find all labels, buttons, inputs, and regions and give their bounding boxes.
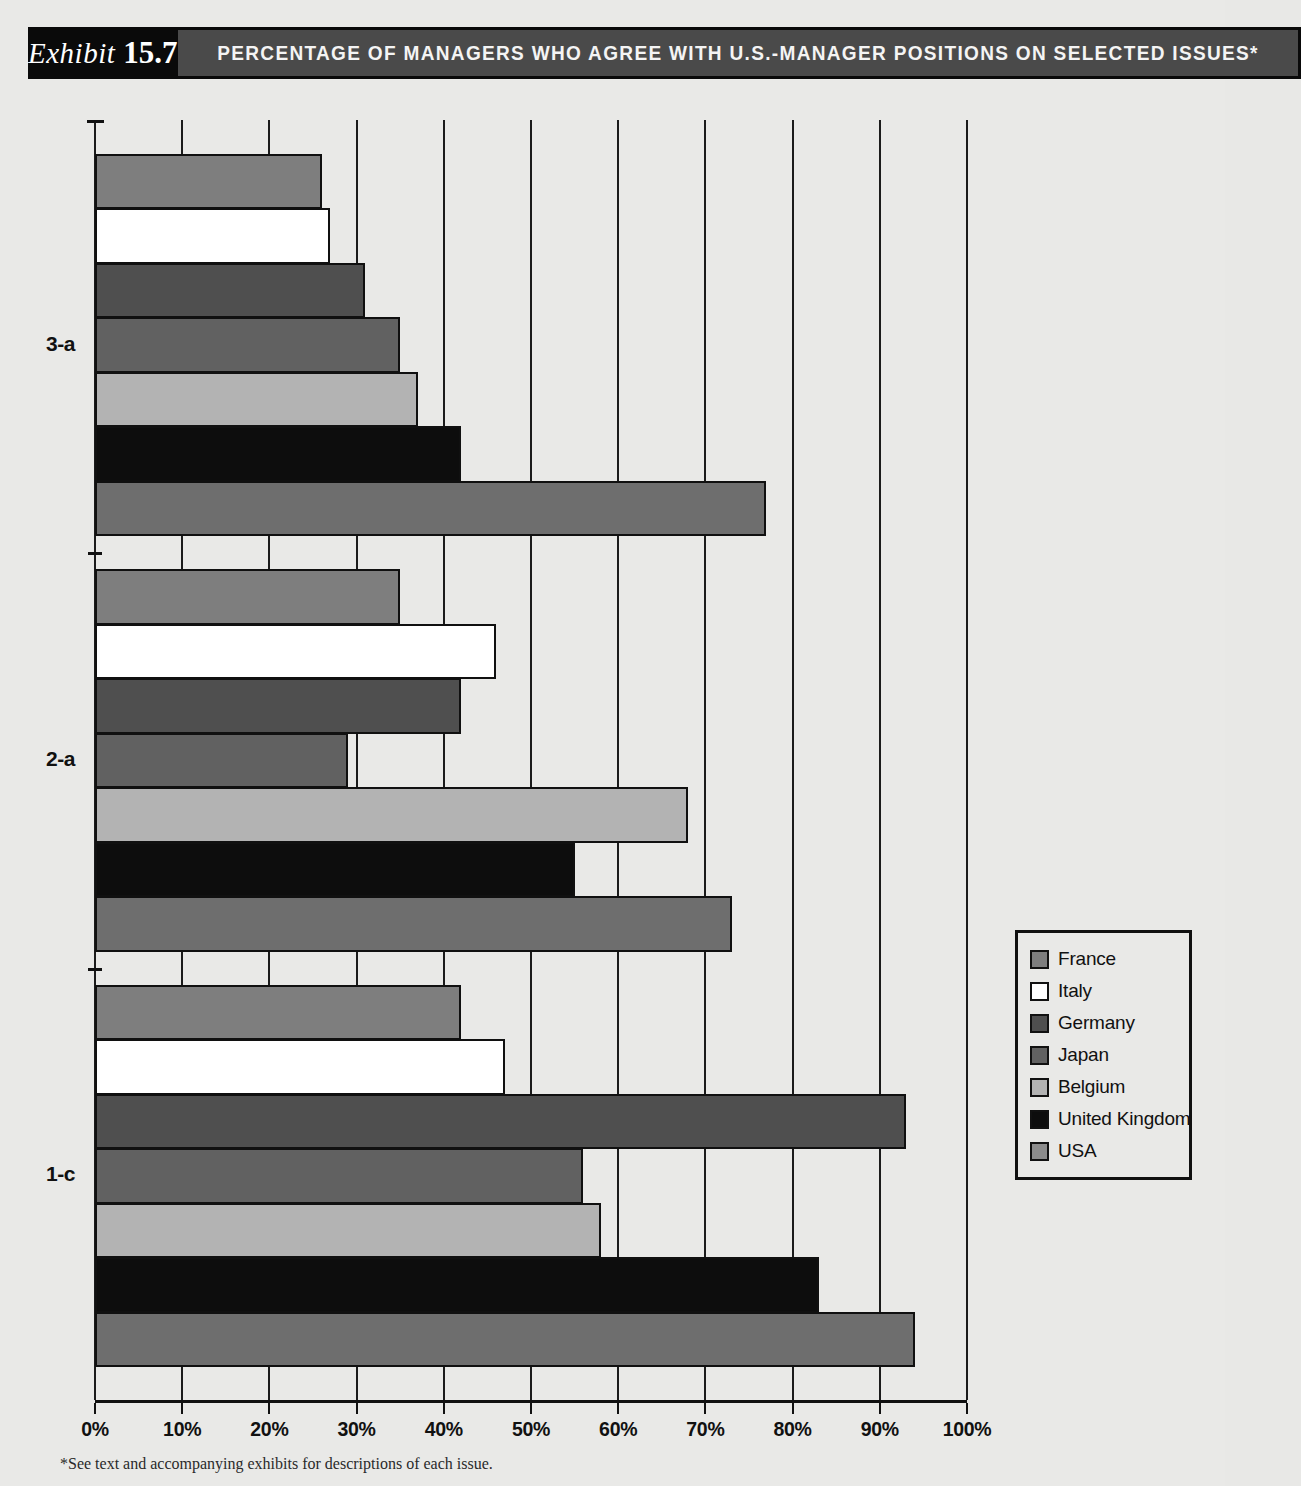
legend-label: United Kingdom bbox=[1058, 1108, 1190, 1130]
legend-label: Japan bbox=[1058, 1044, 1109, 1066]
gridline bbox=[617, 120, 619, 1400]
legend-item[interactable]: Germany bbox=[1030, 1007, 1181, 1039]
gridline bbox=[792, 120, 794, 1400]
legend-swatch-icon bbox=[1030, 1078, 1049, 1097]
legend-item[interactable]: United Kingdom bbox=[1030, 1103, 1181, 1135]
x-tick-label: 60% bbox=[599, 1418, 637, 1441]
bar bbox=[95, 481, 766, 536]
legend-item[interactable]: France bbox=[1030, 943, 1181, 975]
legend-item[interactable]: Japan bbox=[1030, 1039, 1181, 1071]
x-tick bbox=[617, 1403, 619, 1414]
bar bbox=[95, 1203, 601, 1258]
exhibit-title-bar: PERCENTAGE OF MANAGERS WHO AGREE WITH U.… bbox=[178, 27, 1301, 79]
bar bbox=[95, 1257, 819, 1312]
category-label: 3-a bbox=[46, 332, 75, 356]
legend-label: Italy bbox=[1058, 980, 1092, 1002]
bar bbox=[95, 1312, 915, 1367]
x-tick bbox=[792, 1403, 794, 1414]
bar bbox=[95, 317, 400, 372]
footnote: *See text and accompanying exhibits for … bbox=[60, 1455, 760, 1481]
x-tick-label: 30% bbox=[338, 1418, 376, 1441]
exhibit-tab: Exhibit 15.7 bbox=[28, 27, 178, 79]
legend-swatch-icon bbox=[1030, 1142, 1049, 1161]
bar bbox=[95, 678, 461, 733]
x-tick bbox=[879, 1403, 881, 1414]
x-tick-label: 20% bbox=[250, 1418, 288, 1441]
legend-swatch-icon bbox=[1030, 950, 1049, 969]
y-axis-tick bbox=[88, 552, 102, 555]
gridline bbox=[704, 120, 706, 1400]
legend-label: Belgium bbox=[1058, 1076, 1125, 1098]
bar bbox=[95, 154, 322, 209]
x-tick bbox=[94, 1403, 96, 1414]
bar bbox=[95, 624, 496, 679]
gridline bbox=[966, 120, 968, 1400]
bar bbox=[95, 896, 732, 951]
legend-item[interactable]: Italy bbox=[1030, 975, 1181, 1007]
bar bbox=[95, 372, 418, 427]
x-tick bbox=[181, 1403, 183, 1414]
x-tick-label: 100% bbox=[943, 1418, 992, 1441]
legend-label: France bbox=[1058, 948, 1116, 970]
x-tick bbox=[443, 1403, 445, 1414]
x-tick bbox=[704, 1403, 706, 1414]
legend-item[interactable]: USA bbox=[1030, 1135, 1181, 1167]
exhibit-word: Exhibit bbox=[28, 37, 115, 70]
x-tick-label: 40% bbox=[425, 1418, 463, 1441]
x-tick-label: 90% bbox=[861, 1418, 899, 1441]
bar bbox=[95, 263, 365, 318]
gridline bbox=[879, 120, 881, 1400]
x-tick bbox=[966, 1403, 968, 1414]
bar bbox=[95, 787, 688, 842]
legend-label: Germany bbox=[1058, 1012, 1135, 1034]
bar bbox=[95, 1148, 583, 1203]
exhibit-header: Exhibit 15.7 PERCENTAGE OF MANAGERS WHO … bbox=[28, 27, 1215, 79]
legend-swatch-icon bbox=[1030, 1046, 1049, 1065]
legend: FranceItalyGermanyJapanBelgiumUnited Kin… bbox=[1015, 930, 1192, 1180]
bar bbox=[95, 985, 461, 1040]
category-label: 2-a bbox=[46, 747, 75, 771]
x-tick-label: 70% bbox=[686, 1418, 724, 1441]
bar bbox=[95, 208, 330, 263]
x-tick-label: 0% bbox=[81, 1418, 109, 1441]
bar bbox=[95, 1094, 906, 1149]
page-title: PERCENTAGE OF MANAGERS WHO AGREE WITH U.… bbox=[217, 41, 1259, 65]
bar bbox=[95, 426, 461, 481]
legend-label: USA bbox=[1058, 1140, 1096, 1162]
legend-swatch-icon bbox=[1030, 1110, 1049, 1129]
y-axis-top-cap bbox=[87, 120, 104, 123]
bar bbox=[95, 569, 400, 624]
legend-swatch-icon bbox=[1030, 1014, 1049, 1033]
legend-item[interactable]: Belgium bbox=[1030, 1071, 1181, 1103]
bar bbox=[95, 733, 348, 788]
legend-swatch-icon bbox=[1030, 982, 1049, 1001]
chart-area: 0%10%20%30%40%50%60%70%80%90%100% 3-a2-a… bbox=[0, 92, 1225, 1452]
bar bbox=[95, 1039, 505, 1094]
x-tick-label: 50% bbox=[512, 1418, 550, 1441]
x-tick-label: 80% bbox=[774, 1418, 812, 1441]
x-tick bbox=[356, 1403, 358, 1414]
bar bbox=[95, 842, 575, 897]
x-tick-label: 10% bbox=[163, 1418, 201, 1441]
x-tick bbox=[268, 1403, 270, 1414]
category-label: 1-c bbox=[46, 1162, 75, 1186]
y-axis-tick bbox=[88, 968, 102, 971]
x-tick bbox=[530, 1403, 532, 1414]
exhibit-number: 15.7 bbox=[123, 35, 177, 71]
